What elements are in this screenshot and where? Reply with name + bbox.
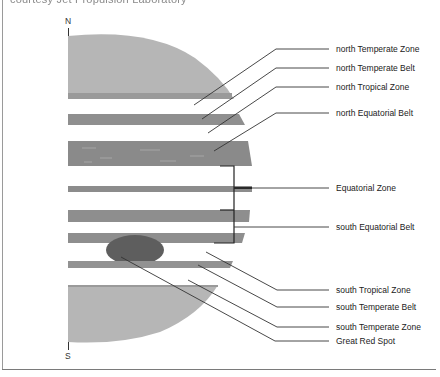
label-south-tropical-zone: south Tropical Zone [336,285,411,295]
equatorial-band [68,186,252,192]
south-pole-label: S [65,351,71,361]
south-temperate-belt [68,261,233,268]
label-north-temperate-belt: north Temperate Belt [336,63,415,73]
north-polar-region [68,34,234,99]
north-temperate-belt [68,114,245,125]
label-great-red-spot: Great Red Spot [336,336,395,346]
south-equatorial-belt-north [68,210,250,222]
leader-south-tropical-zone [206,252,329,290]
equatorial-brackets [214,166,252,243]
label-equatorial-zone: Equatorial Zone [336,183,396,193]
label-south-temperate-belt: south Temperate Belt [336,302,416,312]
label-north-equatorial-belt: north Equatorial Belt [336,108,413,118]
label-north-temperate-zone: north Temperate Zone [336,44,419,54]
great-red-spot [106,235,164,265]
south-polar-edge [68,285,218,287]
label-north-tropical-zone: north Tropical Zone [336,82,409,92]
label-south-temperate-zone: south Temperate Zone [336,322,421,332]
south-polar-region [68,285,218,343]
north-pole-label: N [65,16,71,26]
label-south-equatorial-belt: south Equatorial Belt [336,222,414,232]
